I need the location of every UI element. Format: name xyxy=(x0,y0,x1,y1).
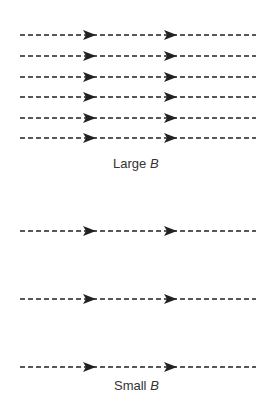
large-b-field-line xyxy=(20,51,256,61)
small-b-field-line xyxy=(20,362,256,372)
field-lines-diagram xyxy=(0,0,276,398)
small-b-field-line xyxy=(20,294,256,304)
large-b-field-line xyxy=(20,72,256,82)
large-b-label: Large B xyxy=(113,156,159,171)
large-b-label-var: B xyxy=(150,156,159,171)
large-b-field-line xyxy=(20,92,256,102)
small-b-label-text: Small xyxy=(114,378,150,393)
small-b-label-var: B xyxy=(150,378,159,393)
small-b-field-line xyxy=(20,226,256,236)
small-b-label: Small B xyxy=(114,378,159,393)
large-b-field-line xyxy=(20,30,256,40)
large-b-field-line xyxy=(20,133,256,143)
large-b-field-line xyxy=(20,113,256,123)
large-b-label-text: Large xyxy=(113,156,150,171)
